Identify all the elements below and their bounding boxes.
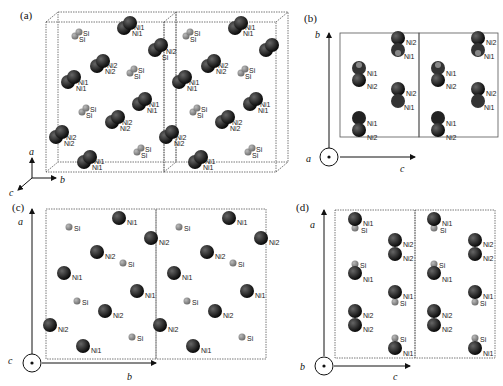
atom-label: Ni1: [483, 293, 494, 300]
atom-label: Ni1: [484, 104, 495, 111]
panel-c: (c) a c b Ni1Ni2 Ni2Ni1 Ni1Ni2: [8, 201, 280, 382]
axis-label-b: b: [60, 174, 65, 185]
atom-label: Ni2: [486, 39, 497, 46]
atom-label: Ni2: [159, 239, 170, 246]
atom-label: Ni1: [187, 85, 198, 92]
atom-label: Ni2: [367, 134, 378, 141]
atom-label: Ni1: [127, 219, 138, 226]
atom-label: Si: [137, 335, 144, 342]
atom-label: Si: [79, 36, 86, 43]
atom-label: Ni2: [174, 140, 185, 147]
atom-label: Si: [197, 112, 204, 119]
atom-label: a: [306, 153, 311, 164]
atom-label: Ni1: [203, 164, 214, 171]
atom-label: Si: [360, 262, 367, 269]
atom-label: Si: [361, 227, 368, 234]
atom-label: Ni2: [446, 134, 457, 141]
atom-label: Ni2: [486, 90, 497, 97]
atom-label: a: [310, 219, 315, 230]
atom-label: Si: [82, 299, 89, 306]
panel-label-c: (c): [12, 201, 25, 214]
atom-label: Ni2: [403, 255, 414, 262]
atom-label: Ni1: [76, 85, 87, 92]
atom-label: Si: [480, 336, 487, 343]
atom-label: Si: [190, 36, 197, 43]
atom-label: Ni1: [446, 70, 457, 77]
atom-label: Ni2: [483, 241, 494, 248]
atom-label: Ni2: [105, 68, 116, 75]
atom-label: Si: [245, 73, 252, 80]
atom-label: Ni1: [147, 107, 158, 114]
atom-label: Ni1: [442, 276, 453, 283]
atom-label: Ni2: [269, 239, 280, 246]
atom-label: Ni1: [145, 292, 156, 299]
atom-label: Ni1: [367, 70, 378, 77]
atom-label: Ni1: [243, 30, 254, 37]
panel-label-d: (d): [296, 201, 309, 214]
panel-b: (b) b a c Ni2Ni1 Ni2Ni1 Ni1Ni2 Ni1Ni2 Ni…: [304, 12, 498, 174]
atom-label: Si: [162, 54, 169, 61]
atom-label: a: [18, 216, 23, 227]
atom-label: Ni2: [120, 125, 131, 132]
panel-d: (d) a b c Ni1Si Ni1Si Ni2Ni2: [296, 201, 495, 382]
atom-label: Ni2: [105, 253, 116, 260]
atom-label: Ni2: [113, 312, 124, 319]
atom-label: Ni2: [216, 68, 227, 75]
atom-label: Si: [480, 300, 487, 307]
atom-label: Si: [128, 261, 135, 268]
atom-label: Ni1: [404, 53, 415, 60]
atom-label: Ni2: [446, 83, 457, 90]
atom-label: Ni2: [64, 140, 75, 147]
atom-label: Si: [439, 262, 446, 269]
atom-label: Ni1: [484, 53, 495, 60]
atom-label: Ni2: [483, 255, 494, 262]
atom-label: b: [300, 361, 305, 372]
atom-label: Ni2: [223, 312, 234, 319]
atom-label: b: [315, 29, 320, 40]
atom-label: Ni1: [483, 350, 494, 357]
atom-label: b: [127, 371, 132, 382]
atom-label: Si: [238, 261, 245, 268]
atom-label: Si: [86, 112, 93, 119]
atom-label: Ni1: [442, 220, 453, 227]
panel-label-b: (b): [304, 12, 317, 25]
atom-label: Si: [247, 335, 254, 342]
atom-label: c: [8, 355, 13, 366]
atom-label: Ni2: [406, 39, 417, 46]
atom-label: Ni1: [92, 164, 103, 171]
atom-label: Ni2: [367, 83, 378, 90]
panel-a: (a): [9, 9, 288, 198]
atom-label: c: [400, 163, 405, 174]
atom-label: Ni2: [363, 312, 374, 319]
atom-label: Si: [400, 300, 407, 307]
atom-label: Ni1: [363, 276, 374, 283]
atom-label: Ni1: [237, 219, 248, 226]
atom-label: c: [393, 371, 398, 382]
atom-label: Si: [141, 152, 148, 159]
atom-label: Si: [134, 73, 141, 80]
atom-label: Ni2: [58, 326, 69, 333]
atom-label: Ni1: [258, 107, 269, 114]
atom-label: Si: [252, 152, 259, 159]
atom-label: Si: [192, 299, 199, 306]
atom-label: Si: [184, 225, 191, 232]
atom-label: Ni2: [406, 90, 417, 97]
atom-label: Ni1: [182, 274, 193, 281]
atom-label: Ni2: [168, 326, 179, 333]
atom-label: Ni1: [72, 274, 83, 281]
atom-label: Ni1: [363, 220, 374, 227]
atom-label: Ni2: [442, 312, 453, 319]
atom-label: Ni1: [91, 347, 102, 354]
atom-label: Si: [400, 336, 407, 343]
crystal-structure-figure: (a): [0, 0, 503, 386]
panel-label-a: (a): [20, 9, 33, 22]
atoms-c: [43, 211, 268, 353]
atom-label: Ni2: [230, 125, 241, 132]
atom-label: Ni2: [363, 326, 374, 333]
atom-label: Si: [440, 227, 447, 234]
atom-label: Ni1: [132, 30, 143, 37]
atom-label: Ni1: [403, 350, 414, 357]
atom-label: Ni1: [255, 292, 266, 299]
axis-label-c: c: [9, 187, 14, 198]
atom-label: Ni2: [403, 241, 414, 248]
